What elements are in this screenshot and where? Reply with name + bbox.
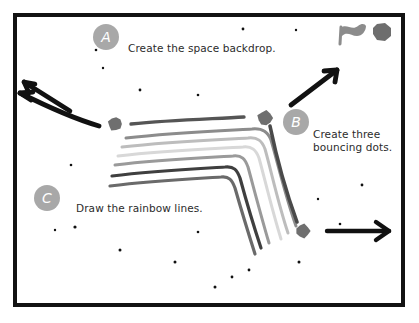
star-dot <box>242 28 245 31</box>
bouncing-dot-right <box>296 224 310 239</box>
star-dot <box>214 286 217 289</box>
star-dot <box>73 225 76 228</box>
star-dot <box>361 184 364 187</box>
rainbow-lines <box>110 117 297 254</box>
step-badge-b: B <box>283 109 309 135</box>
stage-frame <box>15 15 403 305</box>
step-badge-c-letter: C <box>42 191 52 205</box>
rainbow-line-1 <box>131 117 244 124</box>
star-dot <box>119 249 122 252</box>
star-dot <box>70 164 73 167</box>
rainbow-line-descender <box>270 126 297 222</box>
star-dot <box>54 229 56 231</box>
star-dot <box>139 89 142 92</box>
star-dot <box>102 67 104 69</box>
bouncing-dot-left <box>108 117 122 130</box>
star-dot <box>197 94 200 97</box>
star-dot <box>174 261 177 264</box>
star-dot <box>95 49 98 52</box>
step-badge-a: A <box>93 24 119 50</box>
star-dot <box>339 223 342 226</box>
arrow-right-icon <box>327 222 389 240</box>
rainbow-line-7 <box>110 177 255 254</box>
step-caption-c: Draw the rainbow lines. <box>76 202 203 215</box>
step-caption-b: Create three bouncing dots. <box>313 128 392 154</box>
star-dot <box>295 29 297 31</box>
star-dot <box>197 231 200 234</box>
arrow-up-right-icon <box>291 70 337 105</box>
bouncing-dot-middle <box>257 110 273 125</box>
step-badge-b-letter: B <box>291 115 301 129</box>
green-flag-icon[interactable] <box>340 24 366 44</box>
step-badge-a-letter: A <box>101 30 111 44</box>
step-badge-c: C <box>34 185 60 211</box>
star-dot <box>298 261 301 264</box>
star-dot <box>248 269 251 272</box>
star-dot <box>317 198 319 200</box>
storyboard-scene: A Create the space backdrop. B Create th… <box>0 0 419 323</box>
stop-sign-icon[interactable] <box>373 23 391 41</box>
step-caption-a: Create the space backdrop. <box>128 42 276 55</box>
arrow-left-icon <box>20 92 99 126</box>
star-dot <box>231 276 234 279</box>
